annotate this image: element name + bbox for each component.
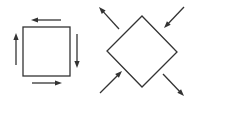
arrow-right-icon <box>74 34 79 68</box>
arrow-top-icon <box>31 17 61 22</box>
square-element <box>23 27 70 76</box>
arrow-lower-right-icon <box>163 74 184 96</box>
arrow-upper-right-icon <box>164 7 184 28</box>
arrow-left-icon <box>13 33 18 65</box>
pure-shear-square-figure <box>13 17 79 85</box>
stress-element-diagram <box>0 0 242 124</box>
arrow-bottom-icon <box>32 80 62 85</box>
arrow-upper-left-icon <box>99 7 119 29</box>
arrow-lower-left-icon <box>100 71 122 93</box>
rotated-principal-diamond-figure <box>99 7 184 96</box>
